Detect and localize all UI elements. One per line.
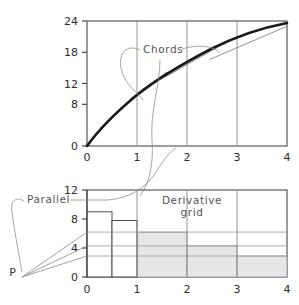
derivative-step-blocks-shaded xyxy=(137,232,287,277)
derivative-grid-label-line1: Derivative xyxy=(162,194,222,206)
upper-y-ticks xyxy=(82,21,87,146)
upper-panel: 24 18 12 8 0 0 1 2 3 4 Chords xyxy=(64,15,291,196)
chord-segments xyxy=(130,26,288,99)
lower-xtick-1: 1 xyxy=(134,283,141,296)
derivative-grid-label-line2: grid xyxy=(181,206,204,218)
lower-xtick-2: 2 xyxy=(184,283,191,296)
chords-annotation-label: Chords xyxy=(143,43,183,55)
lower-panel: 12 8 4 0 0 1 2 3 4 P Parallel Derivative xyxy=(9,148,290,296)
upper-xtick-2: 2 xyxy=(184,151,191,164)
two-panel-calculus-figure: 24 18 12 8 0 0 1 2 3 4 Chords xyxy=(0,0,299,305)
point-p-label: P xyxy=(9,266,16,279)
upper-xtick-1: 1 xyxy=(134,151,141,164)
upper-ytick-18: 18 xyxy=(64,46,78,59)
step-block-05-1 xyxy=(112,221,137,278)
upper-xtick-3: 3 xyxy=(234,151,241,164)
parallel-annotation-label: Parallel xyxy=(27,193,70,205)
upper-ytick-8: 8 xyxy=(71,98,78,111)
lower-xtick-0: 0 xyxy=(84,283,91,296)
step-block-0-05 xyxy=(87,212,112,277)
upper-ytick-0: 0 xyxy=(71,140,78,153)
derivative-step-blocks-open xyxy=(87,212,137,277)
chords-leader-lines xyxy=(120,46,220,196)
upper-ytick-24: 24 xyxy=(64,15,78,28)
upper-xtick-0: 0 xyxy=(84,151,91,164)
step-block-1-2 xyxy=(137,232,187,277)
lower-ytick-8: 8 xyxy=(71,213,78,226)
lower-xtick-4: 4 xyxy=(284,283,291,296)
upper-ytick-12: 12 xyxy=(64,78,78,91)
upper-xtick-4: 4 xyxy=(284,151,291,164)
step-block-3-4 xyxy=(237,256,287,277)
figure-root: 24 18 12 8 0 0 1 2 3 4 Chords xyxy=(0,0,299,305)
lower-xtick-3: 3 xyxy=(234,283,241,296)
step-block-2-3 xyxy=(187,246,237,277)
lower-ytick-0: 0 xyxy=(71,271,78,284)
